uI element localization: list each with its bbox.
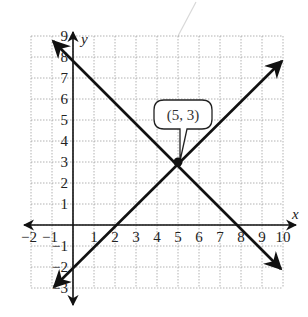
y-axis-label: y [79,31,88,47]
y-tick-label: 5 [61,112,69,128]
scan-artifact [178,2,196,36]
grid [31,36,283,288]
x-tick-label: 9 [258,229,266,245]
y-tick-label: −2 [52,259,68,275]
y-tick-label: 1 [61,196,69,212]
line-decreasing [53,41,281,269]
y-tick-label: 6 [61,91,69,107]
y-tick-label: 7 [61,70,69,86]
y-tick-label: 9 [61,28,69,44]
y-tick-label: 3 [61,154,69,170]
x-tick-label: 7 [216,229,224,245]
x-axis-label: x [291,206,299,222]
x-tick-label: 5 [174,229,182,245]
x-tick-label: 6 [195,229,203,245]
x-tick-label: 1 [90,229,98,245]
x-tick-label: 2 [111,229,119,245]
y-tick-label: 4 [61,133,69,149]
x-tick-label: 10 [276,229,291,245]
y-tick-labels: 987654321−1−2−3 [52,28,68,296]
intersection-point [174,158,183,167]
x-tick-label: 4 [153,229,161,245]
coordinate-plane: −2−112345678910 987654321−1−2−3 y x (5, … [0,0,308,317]
x-tick-label: −2 [21,229,37,245]
callout-label: (5, 3) [167,107,200,124]
y-tick-label: −1 [52,238,68,254]
line-increasing [54,61,282,287]
x-tick-label: 3 [132,229,140,245]
y-tick-label: 2 [61,175,69,191]
